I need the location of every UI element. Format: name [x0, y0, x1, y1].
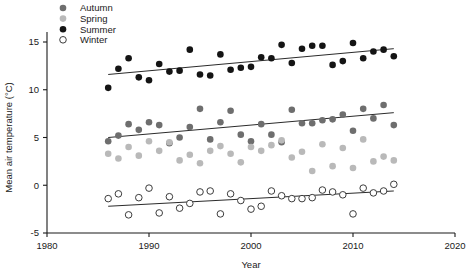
data-point-winter: [350, 211, 357, 218]
legend-marker-winter: [60, 37, 67, 44]
data-point-winter: [278, 192, 285, 199]
data-point-spring: [115, 155, 122, 162]
data-point-autumn: [136, 127, 143, 134]
y-axis-title: Mean air temperature (°C): [3, 82, 14, 192]
data-point-summer: [227, 66, 234, 73]
data-point-spring: [197, 160, 204, 167]
data-point-summer: [329, 62, 336, 69]
trendline-autumn: [108, 113, 394, 138]
data-point-summer: [217, 51, 224, 58]
data-point-winter: [227, 191, 234, 198]
data-point-winter: [105, 195, 112, 202]
data-point-autumn: [289, 107, 296, 114]
data-point-summer: [248, 64, 255, 71]
data-point-spring: [248, 144, 255, 151]
data-point-summer: [289, 60, 296, 67]
data-point-winter: [329, 189, 336, 196]
data-point-autumn: [227, 107, 234, 114]
data-point-summer: [207, 72, 214, 79]
data-point-autumn: [350, 128, 357, 135]
data-point-summer: [166, 68, 173, 75]
y-tick-label: 0: [34, 180, 39, 191]
data-point-autumn: [319, 117, 326, 124]
x-tick-label: 1990: [138, 240, 159, 251]
trendline-summer: [108, 49, 394, 75]
x-tick-label: 2020: [444, 240, 465, 251]
data-point-autumn: [146, 119, 153, 126]
data-point-spring: [370, 158, 377, 165]
data-point-summer: [391, 53, 398, 60]
data-point-summer: [125, 55, 132, 62]
data-point-summer: [197, 71, 204, 78]
data-point-spring: [278, 137, 285, 144]
data-point-winter: [238, 197, 245, 204]
data-point-spring: [217, 143, 224, 150]
data-point-spring: [299, 149, 306, 156]
data-point-autumn: [248, 138, 255, 145]
data-point-winter: [370, 190, 377, 197]
data-point-winter: [380, 188, 387, 195]
data-point-spring: [340, 145, 347, 152]
y-tick-label: 5: [34, 132, 39, 143]
data-point-summer: [187, 46, 194, 53]
data-point-spring: [268, 142, 275, 149]
data-point-autumn: [115, 132, 122, 139]
data-point-autumn: [380, 102, 387, 109]
data-point-autumn: [217, 119, 224, 126]
data-point-winter: [289, 195, 296, 202]
data-point-summer: [176, 67, 183, 74]
data-point-summer: [146, 77, 153, 84]
data-point-autumn: [207, 136, 214, 143]
x-tick-label: 1980: [36, 240, 57, 251]
scatter-plot: 19801990200020102020-5051015YearMean air…: [0, 0, 473, 271]
data-point-summer: [268, 55, 275, 62]
data-point-winter: [146, 185, 153, 192]
data-point-summer: [360, 55, 367, 62]
data-point-spring: [319, 141, 326, 148]
data-point-spring: [136, 152, 143, 159]
data-point-summer: [380, 46, 387, 53]
data-point-summer: [278, 42, 285, 49]
data-point-autumn: [125, 121, 132, 128]
data-point-spring: [227, 150, 234, 157]
data-point-winter: [248, 206, 255, 213]
data-point-spring: [238, 159, 245, 166]
data-point-spring: [360, 136, 367, 143]
data-point-summer: [350, 40, 357, 47]
data-point-winter: [258, 203, 265, 210]
legend-label-summer: Summer: [80, 24, 116, 35]
data-point-winter: [391, 181, 398, 188]
data-point-winter: [340, 192, 347, 199]
data-point-autumn: [370, 115, 377, 122]
data-point-winter: [309, 194, 316, 201]
data-point-autumn: [187, 124, 194, 131]
data-point-summer: [258, 54, 265, 61]
data-point-winter: [176, 205, 183, 212]
data-point-autumn: [340, 111, 347, 118]
data-point-autumn: [309, 120, 316, 127]
data-point-summer: [299, 45, 306, 52]
legend-label-winter: Winter: [80, 34, 107, 45]
data-point-autumn: [360, 106, 367, 113]
data-point-winter: [319, 187, 326, 194]
data-point-summer: [156, 61, 163, 68]
y-tick-label: -5: [31, 227, 39, 238]
data-point-summer: [238, 64, 245, 71]
data-point-spring: [146, 138, 153, 145]
data-point-autumn: [197, 106, 204, 113]
data-point-autumn: [156, 122, 163, 129]
data-point-summer: [136, 74, 143, 81]
data-point-spring: [350, 165, 357, 172]
data-point-spring: [105, 150, 112, 157]
data-point-autumn: [268, 131, 275, 138]
data-point-spring: [309, 168, 316, 175]
data-point-winter: [156, 210, 163, 217]
data-point-spring: [187, 151, 194, 158]
x-tick-label: 2000: [240, 240, 261, 251]
data-point-winter: [197, 189, 204, 196]
data-point-spring: [166, 139, 173, 146]
data-point-autumn: [299, 120, 306, 127]
data-point-spring: [289, 154, 296, 161]
data-point-spring: [207, 148, 214, 155]
legend-label-autumn: Autumn: [80, 2, 113, 13]
